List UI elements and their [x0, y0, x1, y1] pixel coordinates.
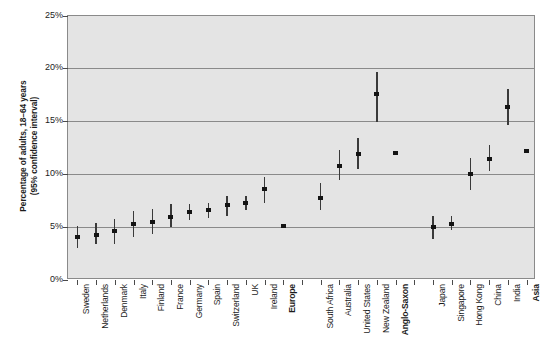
point-marker [150, 220, 155, 224]
x-tick-label: France [174, 284, 186, 352]
y-tick-label: 0% [33, 275, 63, 284]
point-marker [487, 157, 492, 161]
y-tick-mark [63, 174, 68, 175]
x-tick-label: United States [361, 284, 373, 352]
x-tick-label: Australia [342, 284, 354, 352]
point-marker [262, 187, 267, 191]
x-tick-label: New Zealand [380, 284, 392, 352]
gridline [68, 227, 534, 228]
x-tick-label: India [511, 284, 523, 352]
point-marker [94, 233, 99, 237]
point-marker [75, 235, 80, 239]
x-tick-label: Germany [193, 284, 205, 352]
x-tick-label: Finland [155, 284, 167, 352]
y-tick-mark [63, 121, 68, 122]
point-marker [393, 151, 398, 155]
point-marker [449, 222, 454, 226]
y-tick-mark [63, 227, 68, 228]
point-marker [337, 164, 342, 168]
point-marker [505, 105, 510, 109]
point-marker [281, 224, 286, 228]
y-tick-label: 25% [33, 11, 63, 20]
x-tick-label: Italy [137, 284, 149, 352]
x-tick-label: China [492, 284, 504, 352]
point-marker [318, 196, 323, 200]
chart-figure: Percentage of adults, 18–64 years (95% c… [0, 0, 546, 355]
x-tick-label: Singapore [455, 284, 467, 352]
x-tick-label: Europe [286, 284, 298, 352]
gridline [68, 174, 534, 175]
point-marker [206, 208, 211, 212]
point-marker [187, 210, 192, 214]
point-marker [374, 92, 379, 96]
y-tick-mark [63, 280, 68, 281]
x-tick-label: Ireland [268, 284, 280, 352]
y-tick-label: 10% [33, 169, 63, 178]
x-tick-label: UK [249, 284, 261, 352]
x-tick-label: Denmark [118, 284, 130, 352]
x-axis-tick-labels: SwedenNetherlandsDenmarkItalyFinlandFran… [67, 284, 535, 355]
gridline [68, 68, 534, 69]
x-tick-label: Netherlands [99, 284, 111, 352]
y-axis-tick-labels: 0%5%10%15%20%25% [31, 0, 63, 300]
point-marker [468, 172, 473, 176]
gridline [68, 121, 534, 122]
point-marker [243, 201, 248, 205]
point-marker [524, 149, 529, 153]
x-tick-label: Spain [211, 284, 223, 352]
y-tick-label: 20% [33, 63, 63, 72]
x-tick-label: Sweden [80, 284, 92, 352]
y-tick-label: 5% [33, 222, 63, 231]
x-tick-label: Asia [530, 284, 542, 352]
point-marker [112, 229, 117, 233]
y-tick-label: 15% [33, 116, 63, 125]
point-marker [356, 152, 361, 156]
error-bar [376, 72, 377, 122]
x-tick-label: Hong Kong [473, 284, 485, 352]
x-tick-label: Switzerland [230, 284, 242, 352]
x-tick-label: Japan [436, 284, 448, 352]
point-marker [131, 222, 136, 226]
plot-area [67, 15, 535, 279]
x-tick-label: Anglo-Saxon [399, 284, 411, 352]
point-marker [431, 225, 436, 229]
x-tick-label: South Africa [324, 284, 336, 352]
y-tick-mark [63, 68, 68, 69]
point-marker [225, 203, 230, 207]
point-marker [168, 215, 173, 219]
y-tick-mark [63, 16, 68, 17]
